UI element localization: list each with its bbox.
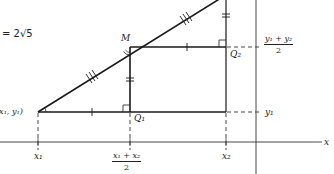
label-y-midpoint: y₁ + y₂ 2 <box>264 35 293 55</box>
right-angle-q2 <box>219 40 226 47</box>
label-x-axis: x <box>324 138 329 147</box>
label-q1: Q₁ <box>134 114 145 123</box>
x-mid-denominator: 2 <box>112 162 141 172</box>
right-angle-q1 <box>123 105 130 112</box>
label-point-p1: (x₁, y₁) <box>0 108 23 116</box>
label-midpoint-m: M <box>121 34 130 43</box>
label-q2: Q₂ <box>230 50 241 59</box>
y-mid-denominator: 2 <box>264 45 293 55</box>
y-mid-numerator: y₁ + y₂ <box>264 35 293 45</box>
label-x1: x₁ <box>34 152 43 161</box>
label-x2: x₂ <box>222 152 231 161</box>
label-y1: y₁ <box>265 108 274 117</box>
x-mid-numerator: x₁ + x₂ <box>112 152 141 162</box>
midpoint-diagram <box>0 0 334 174</box>
distance-equation-fragment: = 2√5 <box>2 28 33 39</box>
label-x-midpoint: x₁ + x₂ 2 <box>112 152 141 172</box>
